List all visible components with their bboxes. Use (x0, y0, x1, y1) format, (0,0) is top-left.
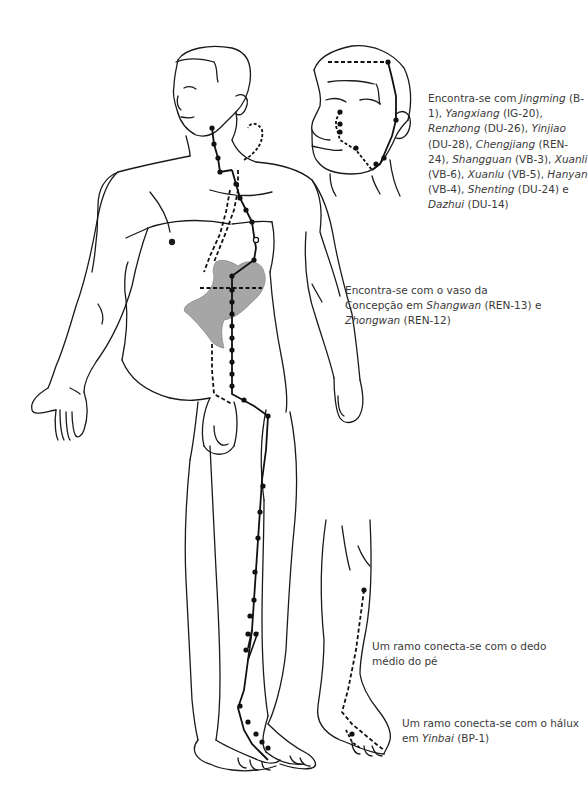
acupoint-name: Chengjiang (476, 138, 535, 150)
annotation-hallux-branch: Um ramo conecta-se com o hálux em Yinbai… (402, 716, 582, 746)
acupoint-name: Shenting (468, 183, 515, 195)
acupoint-name: Zhongwan (345, 314, 400, 326)
acupoint-name: Yinjiao (531, 122, 566, 134)
annotation-text: Encontra-se com (428, 92, 520, 104)
annotation-text: (DU-14) (464, 198, 508, 210)
acupoint-name: Yangxiang (445, 107, 499, 119)
annotation-text: (VB-5), (504, 168, 547, 180)
acupoint-name: Xuanlu (468, 168, 505, 180)
acupoint-name: Yinbai (422, 732, 454, 744)
annotation-text: (DU-26), (480, 122, 531, 134)
annotation-text: Um ramo conecta-se com o dedo médio do p… (372, 640, 546, 667)
annotation-text: (DU-28), (428, 138, 476, 150)
annotation-text: (REN-12) (400, 314, 450, 326)
annotation-face-meetings: Encontra-se com Jingming (B-1), Yangxian… (428, 91, 588, 213)
annotation-text: (IG-20), (500, 107, 543, 119)
annotation-text: (VB-6), (428, 168, 468, 180)
acupoint-name: Jingming (520, 92, 566, 104)
annotation-text: (DU-24) e (515, 183, 569, 195)
main-right-leg (262, 412, 315, 769)
annotation-conception-vessel: Encontra-se com o vaso da Concepção em S… (345, 283, 545, 329)
main-left-arm (32, 172, 148, 440)
acupoint-name: Dazhui (428, 198, 464, 210)
inset-leg (318, 520, 391, 756)
annotation-text: (VB-4), (428, 183, 468, 195)
stomach-meridian (200, 62, 396, 760)
acupoint-name: Hanyan (547, 168, 587, 180)
stomach-organ (184, 260, 265, 348)
annotation-text: (VB-3), (512, 153, 555, 165)
acupoint-name: Shangguan (452, 153, 511, 165)
acupoint-name: Xuanli (555, 153, 588, 165)
acupoint-name: Renzhong (428, 122, 480, 134)
annotation-text: (REN-13) e (481, 299, 541, 311)
annotation-text: (BP-1) (454, 732, 489, 744)
acupoint-name: Shangwan (426, 299, 481, 311)
acupoint-markers (209, 59, 398, 750)
annotation-middle-toe-branch: Um ramo conecta-se com o dedo médio do p… (372, 639, 552, 669)
main-genitals (202, 398, 237, 454)
